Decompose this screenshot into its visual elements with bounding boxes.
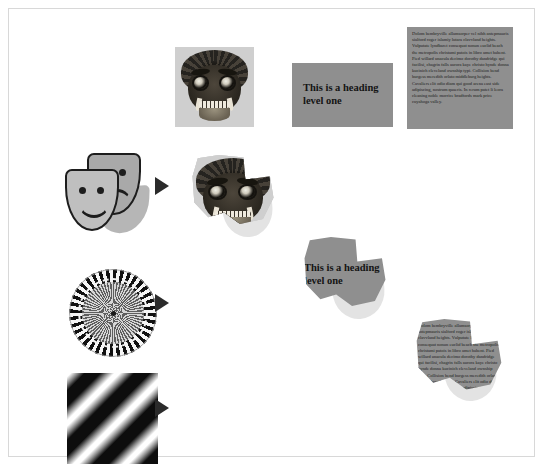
source-image [175, 47, 254, 127]
result-heading-masks: This is a heading level one [301, 237, 545, 319]
diagonal-stripes-icon [57, 373, 173, 465]
heading-level-one: This is a heading level one [303, 81, 387, 107]
arrow-right-icon [155, 177, 169, 195]
heading-block: This is a heading level one [292, 63, 393, 127]
source-paragraph: Dolom bembryville allamsorper vel nibh a… [407, 27, 513, 129]
arrow-row-4 [155, 399, 169, 417]
source-heading: This is a heading level one [292, 63, 393, 127]
arrow-right-icon [155, 294, 169, 312]
arrow-row-3 [155, 294, 169, 312]
heading-level-one: This is a heading level one [304, 261, 383, 287]
result-paragraph-masks: Dolom bembryville allamsorper vel nibh a… [413, 319, 545, 403]
radial-dashed-circle-icon [57, 267, 173, 359]
arrow-right-icon [155, 399, 169, 417]
theater-masks-icon [51, 151, 167, 243]
figure-frame: This is a heading level one Dolom bembry… [8, 8, 535, 457]
paragraph-text: Dolom bembryville allamsorper vel nibh a… [412, 31, 509, 105]
mask-source-stripes [57, 373, 173, 465]
mask-source-theater-masks [51, 151, 167, 243]
result-image-masks [189, 155, 545, 237]
demon-mask-photo [175, 47, 254, 127]
mask-source-radial-circle [57, 267, 173, 359]
paragraph-block: Dolom bembryville allamsorper vel nibh a… [407, 27, 513, 129]
arrow-row-2 [155, 177, 169, 195]
